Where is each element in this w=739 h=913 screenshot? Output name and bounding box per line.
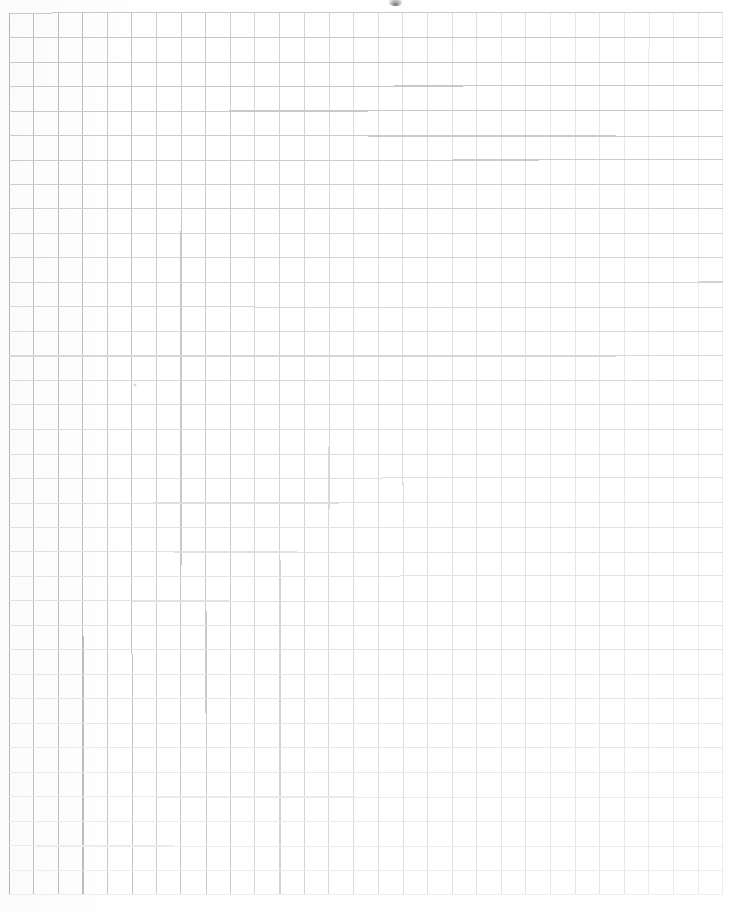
grid-line-horizontal [9,86,723,87]
grid-svg [0,0,739,913]
graph-paper-grid [0,0,739,913]
grid-horizontal-lines [9,13,723,895]
grid-line-horizontal [9,552,723,553]
grid-line-horizontal [9,894,723,895]
graph-paper-page: Blank sheet of quadrille graph paper, 29… [0,0,739,913]
grid-line-horizontal [9,503,723,504]
grid-line-horizontal [9,747,723,748]
grid-line-horizontal [9,257,723,258]
